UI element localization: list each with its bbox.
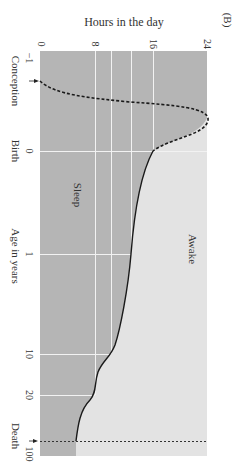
tick-hours-8: 8 bbox=[90, 42, 101, 47]
sleep-chart: (B) Hours in the day 0 8 16 24 −1 Concep… bbox=[0, 0, 232, 466]
tick-hours-24: 24 bbox=[202, 39, 213, 49]
sleep-region-label: Sleep bbox=[72, 183, 84, 208]
conception-label: Conception bbox=[10, 56, 22, 107]
y-axis-title: Hours in the day bbox=[84, 15, 164, 29]
death-arrow-icon bbox=[29, 439, 38, 443]
birth-label: Birth bbox=[10, 140, 22, 163]
tick-age-100: 100 bbox=[24, 447, 35, 462]
tick-hours-0: 0 bbox=[36, 42, 47, 47]
tick-age-1: 1 bbox=[24, 252, 35, 257]
conception-arrow-icon bbox=[29, 79, 39, 83]
tick-age-10: 10 bbox=[24, 349, 35, 359]
tick-age-20: 20 bbox=[24, 390, 35, 400]
tick-hours-16: 16 bbox=[148, 39, 159, 49]
x-axis-title: Age in years bbox=[10, 228, 22, 284]
tick-age-0: 0 bbox=[24, 149, 35, 154]
death-label: Death bbox=[10, 423, 22, 450]
panel-label: (B) bbox=[221, 13, 232, 28]
tick-age-minus1: −1 bbox=[24, 53, 35, 64]
awake-region-label: Awake bbox=[187, 234, 199, 264]
